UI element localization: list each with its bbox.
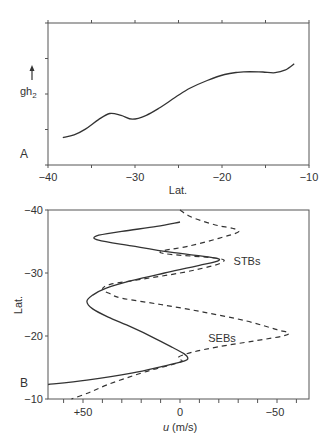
arrow-head-icon: [30, 65, 35, 71]
x-tick-label: −30: [126, 171, 145, 183]
annotation-stbs: STBs: [234, 255, 261, 267]
ylabel-main: gh2: [20, 85, 37, 100]
panel-b: −40 −30 −20 −10 +50 0 −50 u (m/s) Lat. B…: [12, 204, 309, 433]
y-tick-label: −20: [24, 330, 43, 342]
x-tick-label: −20: [213, 171, 232, 183]
panel-b-label: B: [20, 376, 28, 390]
panel-a-x-axis-label: Lat.: [169, 184, 187, 196]
panel-b-dashed-curve: [71, 210, 289, 399]
panel-a-curve: [63, 64, 294, 138]
panel-b-y-tick-labels: −40 −30 −20 −10: [24, 204, 43, 405]
y-tick-label: −10: [24, 393, 43, 405]
panel-b-x-tick-labels: +50 0 −50: [74, 406, 285, 418]
panel-b-solid-curve: [48, 222, 219, 385]
y-tick-label: −30: [24, 267, 43, 279]
panel-a-label: A: [20, 147, 28, 161]
panel-a-x-ticks: [48, 20, 309, 168]
panel-b-x-ticks: [64, 399, 297, 403]
y-tick-label: −40: [24, 204, 43, 216]
panel-b-y-axis-label: Lat.: [12, 296, 24, 314]
panel-a-frame: [48, 23, 309, 165]
panel-b-frame: [48, 210, 309, 399]
x-tick-label: +50: [74, 406, 93, 418]
panel-a-x-tick-labels: −40 −30 −20 −10: [39, 171, 319, 183]
x-tick-label: −10: [300, 171, 319, 183]
panel-a-y-axis-label: gh2: [20, 65, 37, 100]
x-tick-label: 0: [177, 406, 183, 418]
x-tick-label: −40: [39, 171, 58, 183]
figure: −40 −30 −20 −10 Lat. gh2 A −40 −30 −20 −…: [0, 0, 329, 439]
panel-a: −40 −30 −20 −10 Lat. gh2 A: [20, 20, 318, 196]
annotation-sebs: SEBs: [208, 332, 236, 344]
x-tick-label: −50: [266, 406, 285, 418]
panel-b-x-axis-label: u (m/s): [163, 421, 197, 433]
